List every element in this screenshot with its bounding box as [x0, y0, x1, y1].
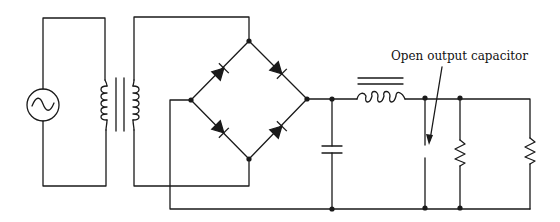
transformer-secondary-coil-icon [133, 80, 139, 130]
load-resistor-icon [525, 138, 535, 209]
filter-inductor-icon [357, 78, 405, 102]
junction-dot [422, 205, 427, 210]
annotation-label: Open output capacitor [391, 49, 528, 63]
ac-source-icon [27, 89, 59, 121]
junction-dot [457, 205, 462, 210]
bridge-rectifier [191, 41, 307, 159]
junction-dot [329, 206, 334, 211]
diodes [211, 61, 287, 139]
bleeder-resistor-icon [455, 99, 465, 208]
junction-dot [329, 96, 334, 101]
arrowhead-icon [426, 134, 433, 145]
junction-dot [188, 97, 193, 102]
circuit-diagram [0, 0, 560, 222]
junction-dot [457, 95, 462, 100]
annotation-arrow-icon [430, 67, 442, 140]
transformer-primary-coil-icon [101, 80, 107, 130]
junction-dot [246, 156, 251, 161]
junction-dot [304, 96, 309, 101]
junction-dot [246, 38, 251, 43]
input-capacitor-icon [322, 99, 342, 209]
transformer-core-icon [116, 78, 124, 131]
return-wire [170, 100, 530, 209]
primary-circuit [43, 18, 106, 186]
junction-dot [422, 95, 427, 100]
output-top-rail [405, 99, 530, 138]
diode-icon [211, 63, 229, 81]
